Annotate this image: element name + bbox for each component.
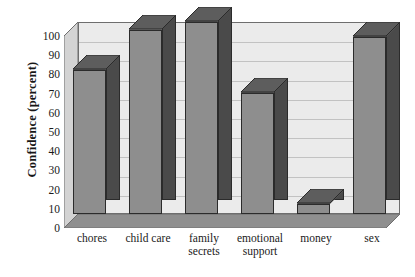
bar-4 [297,204,330,214]
bar-side-face [218,8,232,200]
bar-front-face [353,37,386,214]
y-tick-60: 60 [49,107,61,119]
bar-5 [353,37,386,214]
bar-2 [185,22,218,214]
plot-area [64,22,400,228]
bar-series [64,22,400,228]
bar-front-face [129,30,162,214]
y-tick-30: 30 [49,164,61,176]
y-tick-20: 20 [49,184,61,196]
y-tick-90: 90 [49,49,61,61]
y-tick-10: 10 [49,203,61,215]
x-axis-category-labels: choreschild carefamily secretsemotional … [64,232,415,277]
bar-3 [241,93,274,214]
y-tick-100: 100 [43,30,60,42]
bar-side-face [386,23,400,200]
x-category-label-5: sex [336,232,408,245]
bar-0 [73,70,106,214]
bar-front-face [185,22,218,214]
bar-top-outline [353,22,400,37]
y-tick-70: 70 [49,88,61,100]
bar-chart: Confidence (percent) 0102030405060708090… [0,0,415,277]
bar-top-outline [129,15,176,30]
y-tick-50: 50 [49,126,61,138]
bar-front-face [297,204,330,214]
bar-front-face [73,70,106,214]
bar-top-outline [297,189,344,204]
bar-top-outline [241,78,288,93]
bar-1 [129,30,162,214]
bar-side-face [274,79,288,200]
bar-front-face [241,93,274,214]
y-tick-80: 80 [49,68,61,80]
y-tick-40: 40 [49,145,61,157]
bar-side-face [106,56,120,200]
bar-side-face [162,16,176,200]
bar-top-outline [73,55,120,70]
bar-top-outline [185,7,232,22]
